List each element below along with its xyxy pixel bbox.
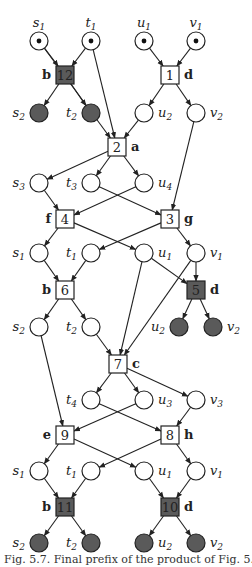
arc bbox=[124, 156, 139, 176]
transition-number: 7 bbox=[114, 357, 122, 372]
arc bbox=[44, 260, 59, 281]
place-v2: v2 bbox=[187, 104, 223, 122]
transition-label: s1 bbox=[33, 15, 45, 32]
place-t4: t4 bbox=[66, 391, 100, 409]
place-circle bbox=[82, 462, 100, 480]
arc bbox=[99, 187, 161, 215]
transition-label: v1 bbox=[189, 15, 202, 32]
place-circle bbox=[170, 318, 188, 336]
place-circle bbox=[30, 318, 48, 336]
place-circle bbox=[82, 534, 100, 552]
place-t1: t1 bbox=[82, 15, 100, 50]
petri-net-unfolding-diagram: s1t1u1v1s2t2u2v2s3t3u4s1t1u1v1s2t2u2v2t4… bbox=[0, 0, 252, 567]
transition-label: t4 bbox=[66, 392, 77, 409]
arc bbox=[44, 516, 58, 536]
place-circle bbox=[82, 318, 100, 336]
transition-10: 10d bbox=[161, 498, 193, 516]
token-icon bbox=[194, 39, 199, 44]
transition-7: 7c bbox=[109, 355, 140, 373]
arc bbox=[96, 334, 111, 355]
arc bbox=[44, 444, 58, 464]
arc bbox=[177, 48, 191, 66]
place-u2: u2 bbox=[151, 318, 188, 336]
place-circle bbox=[187, 391, 205, 409]
transition-label: s2 bbox=[13, 105, 26, 122]
arc bbox=[47, 151, 108, 179]
place-circle bbox=[187, 104, 205, 122]
place-v2: v2 bbox=[187, 534, 223, 552]
transition-label: t1 bbox=[66, 245, 77, 262]
transition-6: 6b bbox=[42, 281, 74, 299]
arc bbox=[120, 262, 142, 355]
arc bbox=[177, 478, 191, 498]
transition-number: 12 bbox=[57, 68, 74, 83]
place-circle bbox=[187, 462, 205, 480]
arc bbox=[71, 260, 86, 281]
arc bbox=[124, 120, 138, 138]
arc bbox=[72, 516, 86, 536]
arc bbox=[72, 478, 86, 498]
token-icon bbox=[142, 39, 147, 44]
transition-number: 10 bbox=[162, 500, 179, 515]
arc bbox=[41, 336, 63, 426]
place-circle bbox=[187, 534, 205, 552]
place-v3: v3 bbox=[187, 391, 223, 409]
transition-1: 1d bbox=[161, 66, 193, 84]
transition-label: d bbox=[184, 67, 193, 82]
transition-label: s1 bbox=[13, 245, 25, 262]
place-t3: t3 bbox=[66, 174, 100, 192]
transition-label: u3 bbox=[158, 392, 172, 409]
transition-label: v1 bbox=[210, 463, 223, 480]
arc bbox=[124, 260, 191, 355]
transition-label: t2 bbox=[66, 319, 77, 336]
transition-label: b bbox=[42, 499, 51, 514]
arc bbox=[176, 84, 191, 106]
transition-label: t3 bbox=[66, 175, 77, 192]
transition-label: v1 bbox=[210, 245, 223, 262]
place-t2: t2 bbox=[66, 104, 100, 122]
place-v1: v1 bbox=[187, 15, 205, 50]
transition-label: c bbox=[132, 356, 140, 371]
transition-number: 2 bbox=[113, 140, 121, 155]
transition-label: t2 bbox=[66, 105, 77, 122]
place-v1: v1 bbox=[187, 462, 223, 480]
transition-12: 12b bbox=[42, 66, 74, 84]
arc bbox=[99, 404, 161, 431]
arc bbox=[149, 84, 164, 106]
arc bbox=[151, 258, 187, 283]
token-icon bbox=[89, 39, 94, 44]
arc bbox=[99, 223, 161, 250]
transition-label: u4 bbox=[158, 175, 172, 192]
place-s3: s3 bbox=[13, 174, 48, 192]
place-circle bbox=[204, 318, 222, 336]
transition-5: 5d bbox=[187, 281, 219, 299]
place-circle bbox=[82, 104, 100, 122]
transition-label: u1 bbox=[158, 463, 172, 480]
place-s2: s2 bbox=[13, 534, 48, 552]
place-circle bbox=[30, 534, 48, 552]
arc bbox=[96, 373, 111, 393]
place-v2: v2 bbox=[204, 318, 240, 336]
transition-label: b bbox=[42, 67, 51, 82]
transition-label: s1 bbox=[13, 463, 25, 480]
transition-number: 8 bbox=[166, 428, 174, 443]
arc bbox=[99, 439, 161, 467]
transition-number: 3 bbox=[166, 212, 174, 227]
place-circle bbox=[135, 534, 153, 552]
arc bbox=[177, 407, 191, 426]
transition-label: f bbox=[45, 211, 52, 226]
transition-label: t1 bbox=[86, 15, 97, 32]
place-u1: u1 bbox=[135, 462, 172, 480]
arc bbox=[44, 190, 58, 210]
arc bbox=[44, 84, 59, 106]
place-circle bbox=[82, 174, 100, 192]
place-t1: t1 bbox=[66, 462, 100, 480]
place-circle bbox=[187, 244, 205, 262]
arc bbox=[93, 50, 115, 138]
arc bbox=[149, 48, 163, 66]
arc bbox=[177, 444, 191, 464]
arc bbox=[149, 478, 163, 498]
transition-label: e bbox=[43, 427, 51, 442]
arc bbox=[44, 228, 58, 246]
transition-label: s2 bbox=[13, 319, 26, 336]
